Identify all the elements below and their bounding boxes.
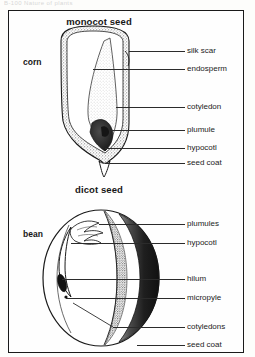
label-plumules: plumules: [187, 219, 219, 228]
label-hypocotl-dicot: hypocotl: [187, 238, 217, 247]
leader-line-seed-coat-dicot: [137, 345, 185, 346]
figure-page: B-100 Nature of plants monocot seed corn: [0, 0, 255, 357]
leader-line-cotyledons: [113, 327, 185, 328]
leader-line-plumules: [99, 224, 185, 225]
label-micropyle: micropyle: [187, 293, 221, 302]
leader-line-hilum: [62, 279, 185, 280]
running-header: B-100 Nature of plants: [4, 0, 154, 8]
figure-frame: monocot seed corn: [8, 10, 244, 353]
leader-line-micropyle: [66, 298, 185, 299]
label-cotyledons: cotyledons: [187, 322, 225, 331]
figure-plate: monocot seed corn: [9, 11, 243, 352]
bean-seed-drawing: [9, 11, 245, 354]
label-hilum: hilum: [187, 274, 206, 283]
leader-line-hypocotl-dicot: [71, 243, 185, 244]
label-seed-coat-dicot: seed coat: [187, 340, 222, 349]
